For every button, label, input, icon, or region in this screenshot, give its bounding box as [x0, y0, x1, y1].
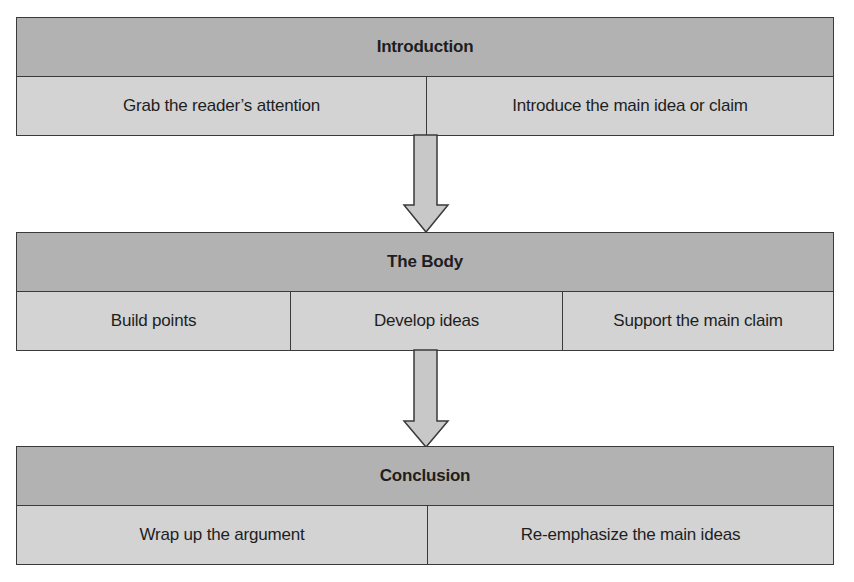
item-build-points: Build points — [17, 292, 291, 350]
section-conclusion: Conclusion Wrap up the argument Re-empha… — [16, 446, 834, 565]
item-wrap-up-argument: Wrap up the argument — [17, 506, 428, 564]
section-title-introduction: Introduction — [17, 18, 833, 77]
item-re-emphasize-main-ideas: Re-emphasize the main ideas — [428, 506, 833, 564]
section-body: The Body Build points Develop ideas Supp… — [16, 232, 834, 351]
section-introduction: Introduction Grab the reader’s attention… — [16, 17, 834, 136]
item-introduce-main-idea: Introduce the main idea or claim — [427, 77, 833, 135]
arrow-down-icon — [400, 349, 452, 449]
item-develop-ideas: Develop ideas — [291, 292, 563, 350]
section-title-body: The Body — [17, 233, 833, 292]
section-row-conclusion: Wrap up the argument Re-emphasize the ma… — [17, 506, 833, 564]
arrow-down-icon — [400, 134, 452, 234]
section-row-body: Build points Develop ideas Support the m… — [17, 292, 833, 350]
section-row-introduction: Grab the reader’s attention Introduce th… — [17, 77, 833, 135]
section-title-conclusion: Conclusion — [17, 447, 833, 506]
item-grab-attention: Grab the reader’s attention — [17, 77, 427, 135]
item-support-main-claim: Support the main claim — [563, 292, 833, 350]
